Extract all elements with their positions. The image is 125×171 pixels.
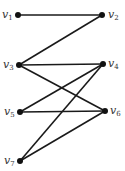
node-v3 xyxy=(16,62,22,68)
label-v3: v3 xyxy=(3,59,14,72)
label-v7-sub: 7 xyxy=(10,160,14,168)
label-v6: v6 xyxy=(110,105,121,118)
label-v2-sub: 2 xyxy=(114,14,118,22)
node-v4 xyxy=(100,61,106,67)
node-v7 xyxy=(17,158,23,164)
label-v4-sub: 4 xyxy=(114,63,118,71)
node-v2 xyxy=(99,12,105,18)
node-v5 xyxy=(17,109,23,115)
label-v6-sub: 6 xyxy=(116,110,120,118)
edge-v4-v5 xyxy=(20,64,103,112)
edge-v3-v4 xyxy=(19,64,103,65)
label-v2: v2 xyxy=(108,9,119,22)
edge-v6-v7 xyxy=(20,111,105,161)
label-v7: v7 xyxy=(4,155,15,168)
graph-diagram xyxy=(0,0,125,171)
label-v1: v1 xyxy=(2,9,13,22)
node-v1 xyxy=(15,12,21,18)
label-v5-sub: 5 xyxy=(10,111,14,119)
label-v3-sub: 3 xyxy=(9,64,13,72)
label-v4: v4 xyxy=(108,58,119,71)
node-v6 xyxy=(102,108,108,114)
label-v1-sub: 1 xyxy=(8,14,12,22)
label-v5: v5 xyxy=(4,106,15,119)
edge-v2-v3 xyxy=(19,15,102,65)
edge-v5-v6 xyxy=(20,111,105,112)
edges xyxy=(18,15,105,161)
